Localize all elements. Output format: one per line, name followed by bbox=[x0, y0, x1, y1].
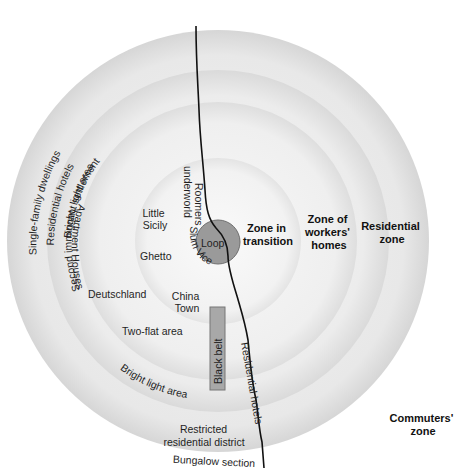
zone-commuters-label: Commuters' zone bbox=[390, 412, 457, 437]
zone-transition-label: Zone in transition bbox=[243, 222, 293, 247]
label-two-flat: Two-flat area bbox=[122, 325, 183, 337]
label-deutschland: Deutschland bbox=[88, 288, 147, 300]
label-loop: Loop bbox=[201, 237, 225, 249]
zone-workers-label: Zone of workers' homes bbox=[304, 213, 353, 251]
label-black-belt: Black belt bbox=[212, 338, 224, 384]
label-china-town: China Town bbox=[172, 290, 202, 314]
concentric-zone-diagram: Black belt Loop Zone in transition Zone … bbox=[0, 0, 467, 475]
label-bungalow: Bungalow section bbox=[173, 453, 256, 469]
label-ghetto: Ghetto bbox=[140, 250, 172, 262]
label-underworld: underworld bbox=[182, 166, 194, 218]
label-little-sicily: Little Sicily bbox=[142, 207, 168, 231]
